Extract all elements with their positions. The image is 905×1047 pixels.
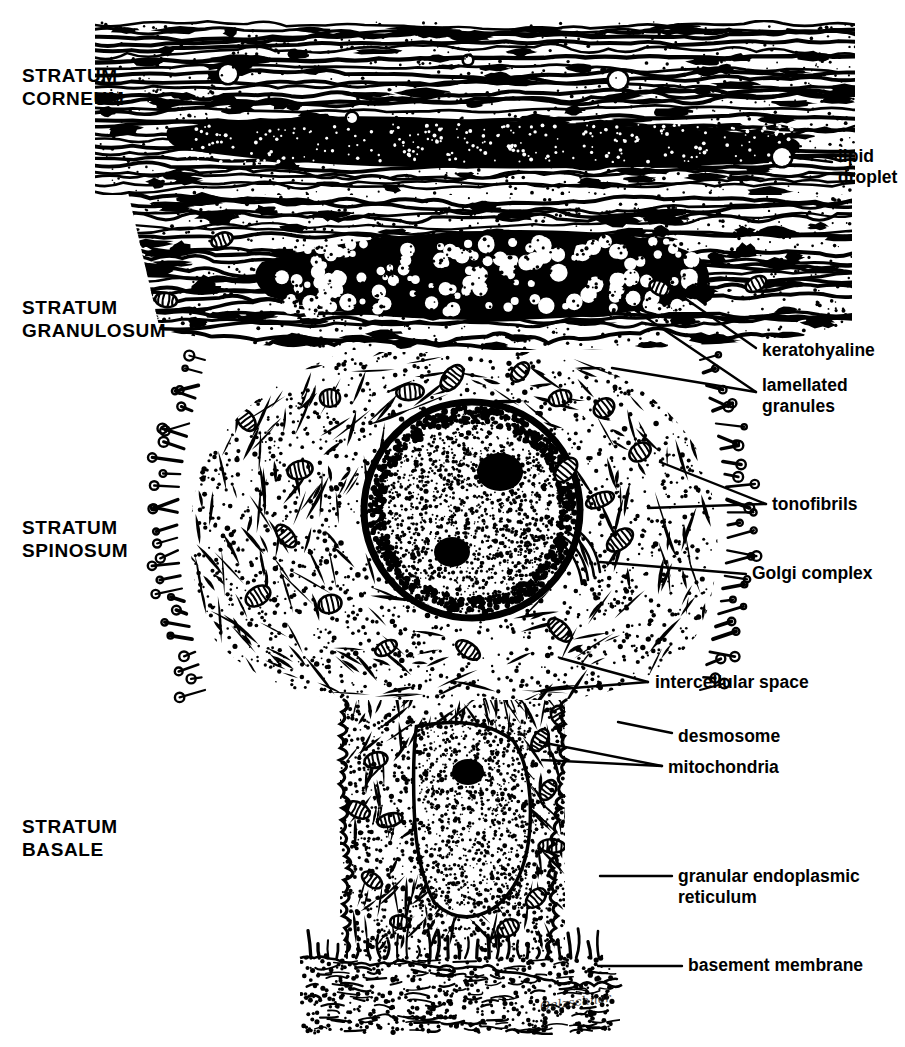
stratum-label-granulosum: STRATUM GRANULOSUM: [22, 296, 166, 342]
callout-basement-membrane: basement membrane: [688, 955, 863, 976]
callout-golgi-complex: Golgi complex: [752, 563, 873, 584]
callout-tonofibrils: tonofibrils: [772, 494, 858, 515]
callout-lipid-droplet: lipid droplet: [838, 146, 897, 188]
stratum-label-basale: STRATUM BASALE: [22, 815, 118, 861]
stratum-label-spinosum: STRATUM SPINOSUM: [22, 516, 128, 562]
callout-mitochondria: mitochondria: [668, 757, 779, 778]
callout-desmosome: desmosome: [678, 726, 780, 747]
callout-lamellated-granules: lamellated granules: [762, 375, 848, 417]
callout-granular-endoplasmic-reticulum: granular endoplasmic reticulum: [678, 866, 860, 908]
callout-intercellular-space: intercellular space: [655, 672, 809, 693]
callout-keratohyaline: keratohyaline: [762, 340, 875, 361]
stratum-label-corneum: STRATUM CORNEUM: [22, 64, 124, 110]
